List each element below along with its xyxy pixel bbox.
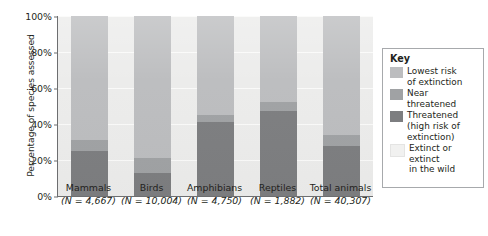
bar-total-animals bbox=[323, 16, 360, 196]
legend-entry: Extinct orextinctin the wild bbox=[389, 143, 478, 175]
legend-entry-label: Threatened(high risk ofextinction) bbox=[407, 110, 460, 142]
bar-segment bbox=[134, 16, 171, 158]
bar-segment bbox=[323, 135, 360, 146]
bar-mammals bbox=[71, 16, 108, 196]
legend-entries: Lowest riskof extinctionNearthreatenedTh… bbox=[389, 66, 478, 175]
bar-birds bbox=[134, 16, 171, 196]
y-axis-tick-label: 80% bbox=[6, 47, 58, 58]
bar-segment bbox=[260, 16, 297, 102]
chart-legend: Key Lowest riskof extinctionNearthreaten… bbox=[382, 48, 484, 188]
x-tick-category: Birds bbox=[140, 182, 164, 193]
bar-reptiles bbox=[260, 16, 297, 196]
plot-area: 0%20%40%60%80%100% bbox=[57, 16, 373, 197]
bar-segment bbox=[197, 115, 234, 122]
y-axis-tick-label: 100% bbox=[6, 11, 58, 22]
legend-color-swatch bbox=[390, 89, 403, 100]
y-axis-tick-label: 40% bbox=[6, 119, 58, 130]
y-axis-title: Percentage of species assessed bbox=[25, 6, 36, 206]
bar-segment bbox=[71, 16, 108, 140]
legend-color-swatch bbox=[390, 111, 403, 122]
x-axis-tick-label: Total animals(N = 40,307) bbox=[298, 182, 384, 207]
legend-title: Key bbox=[390, 53, 478, 64]
x-tick-sample-size: (N = 40,307) bbox=[298, 195, 384, 208]
x-tick-category: Total animals bbox=[310, 182, 372, 193]
legend-entry: Nearthreatened bbox=[389, 88, 478, 109]
legend-color-swatch bbox=[390, 67, 403, 78]
legend-entry: Lowest riskof extinction bbox=[389, 66, 478, 87]
legend-entry-label: Nearthreatened bbox=[407, 88, 456, 109]
legend-entry-label: Lowest riskof extinction bbox=[407, 66, 462, 87]
bar-segment bbox=[197, 16, 234, 115]
legend-entry: Threatened(high risk ofextinction) bbox=[389, 110, 478, 142]
x-tick-category: Reptiles bbox=[259, 182, 296, 193]
x-tick-category: Mammals bbox=[66, 182, 111, 193]
y-axis-tick-label: 20% bbox=[6, 155, 58, 166]
legend-entry-label: Extinct orextinctin the wild bbox=[409, 143, 455, 175]
chart-figure: Percentage of species assessed 0%20%40%6… bbox=[0, 0, 488, 236]
bar-amphibians bbox=[197, 16, 234, 196]
bar-segment bbox=[134, 158, 171, 172]
bar-segment bbox=[323, 16, 360, 135]
y-axis-tick-label: 60% bbox=[6, 83, 58, 94]
bar-segment bbox=[260, 102, 297, 111]
bar-segment bbox=[71, 140, 108, 151]
legend-color-swatch bbox=[390, 144, 405, 157]
